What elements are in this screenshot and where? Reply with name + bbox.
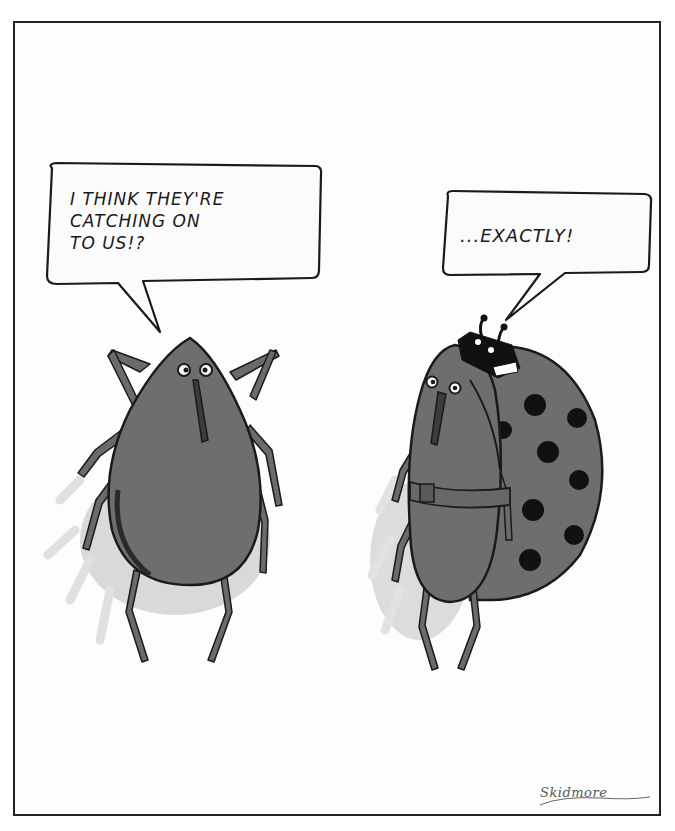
artist-signature: Skidmore (540, 785, 607, 800)
cartoon-illustration (0, 0, 675, 831)
ladybug-costume-character (392, 315, 602, 671)
speech-text-left: I THINK THEY'RE CATCHING ON TO US!? (70, 188, 310, 254)
speech-text-right: ...EXACTLY! (460, 225, 650, 247)
speech-bubble-right (443, 191, 651, 320)
